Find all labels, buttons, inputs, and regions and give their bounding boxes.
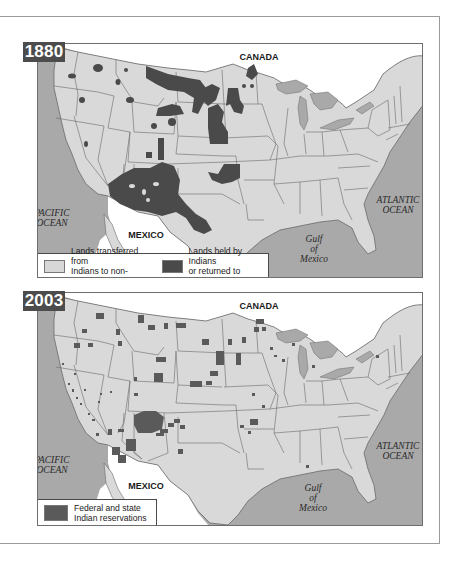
legend-text-line2: Indian reservations bbox=[74, 513, 147, 523]
legend-item-held: Lands held by Indians or returned to Ind… bbox=[156, 246, 268, 278]
legend-2003: Federal and state Indian reservations bbox=[37, 499, 157, 526]
label-canada-1880: CANADA bbox=[240, 52, 279, 62]
label-mexico-1880: MEXICO bbox=[128, 230, 164, 240]
label-canada-2003: CANADA bbox=[240, 301, 279, 311]
legend-item-transferred: Lands transferred from Indians to non-In… bbox=[38, 246, 154, 278]
label-gulf-1880-l3: Mexico bbox=[299, 254, 328, 264]
legend-text-line1: Federal and state bbox=[74, 503, 147, 513]
us-map-1880: CANADA MEXICO PACIFIC OCEAN ATLANTIC OCE… bbox=[38, 44, 423, 278]
year-badge-2003: 2003 bbox=[23, 291, 65, 311]
label-gulf-2003-l3: Mexico bbox=[298, 503, 327, 513]
label-mexico-2003: MEXICO bbox=[128, 481, 164, 491]
label-pacific-2003-l1: PACIFIC bbox=[38, 455, 70, 465]
label-pacific-1880-l1: PACIFIC bbox=[38, 208, 70, 218]
legend-1880: Lands transferred from Indians to non-In… bbox=[37, 253, 269, 278]
legend-text-line2: Indians to non-Indians bbox=[71, 266, 154, 278]
label-gulf-1880-l1: Gulf bbox=[306, 234, 324, 244]
map-2003: CANADA MEXICO PACIFIC OCEAN ATLANTIC OCE… bbox=[37, 292, 423, 526]
year-badge-1880: 1880 bbox=[23, 42, 65, 62]
legend-text-line1: Lands transferred from bbox=[71, 246, 154, 266]
label-atlantic-1880-l1: ATLANTIC bbox=[376, 195, 421, 205]
label-atlantic-2003-l1: ATLANTIC bbox=[376, 441, 421, 451]
us-map-2003: CANADA MEXICO PACIFIC OCEAN ATLANTIC OCE… bbox=[38, 293, 423, 526]
swatch-light-gray bbox=[44, 260, 65, 273]
label-atlantic-1880-l2: OCEAN bbox=[382, 205, 414, 215]
swatch-mid-dark-gray bbox=[44, 505, 68, 521]
label-gulf-2003-l1: Gulf bbox=[305, 483, 323, 493]
map-1880: CANADA MEXICO PACIFIC OCEAN ATLANTIC OCE… bbox=[37, 43, 423, 278]
swatch-dark-gray bbox=[162, 260, 183, 273]
label-atlantic-2003-l2: OCEAN bbox=[382, 451, 414, 461]
legend-text-line2: or returned to Indians bbox=[189, 266, 268, 278]
label-pacific-1880-l2: OCEAN bbox=[38, 218, 68, 228]
legend-text-line1: Lands held by Indians bbox=[189, 246, 268, 266]
label-pacific-2003-l2: OCEAN bbox=[38, 465, 68, 475]
legend-item-reservations: Federal and state Indian reservations bbox=[38, 503, 147, 523]
